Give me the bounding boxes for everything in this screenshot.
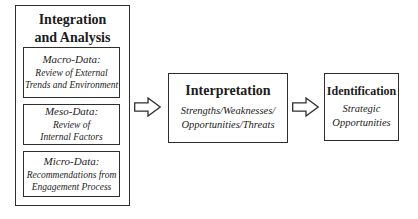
- identification-box: Identification Strategic Opportunities: [324, 73, 399, 141]
- macro-data-heading: Macro-Data:: [42, 53, 100, 67]
- macro-data-box: Macro-Data: Review of External Trends an…: [23, 47, 120, 98]
- integration-analysis-box: Integration and Analysis Macro-Data: Rev…: [15, 5, 130, 206]
- meso-data-box: Meso-Data: Review of Internal Factors: [23, 104, 120, 145]
- micro-data-heading: Micro-Data:: [44, 155, 100, 169]
- integration-analysis-title: Integration and Analysis: [16, 11, 129, 46]
- meso-data-body: Review of Internal Factors: [40, 119, 103, 144]
- identification-title: Identification: [327, 84, 396, 98]
- interpretation-box: Interpretation Strengths/Weaknesses/ Opp…: [168, 73, 288, 143]
- meso-data-heading: Meso-Data:: [45, 105, 98, 119]
- interpretation-title: Interpretation: [185, 83, 270, 100]
- flow-diagram: Integration and Analysis Macro-Data: Rev…: [0, 0, 418, 219]
- macro-data-body: Review of External Trends and Environmen…: [25, 67, 118, 92]
- right-arrow-icon: [292, 97, 319, 117]
- identification-body: Strategic Opportunities: [332, 102, 390, 130]
- right-arrow-icon: [134, 97, 161, 117]
- micro-data-box: Micro-Data: Recommendations from Engagem…: [23, 151, 120, 197]
- interpretation-body: Strengths/Weaknesses/ Opportunities/Thre…: [181, 104, 275, 132]
- micro-data-body: Recommendations from Engagement Process: [27, 169, 117, 194]
